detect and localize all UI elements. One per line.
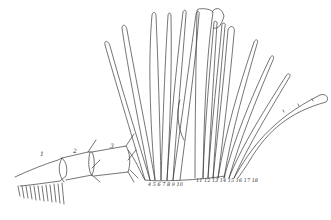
segment-1 [15, 158, 67, 204]
appendage-drawing [0, 0, 331, 220]
base-numbers-left: 4 5 6 7 8 9 10 [148, 182, 183, 187]
segment-label-2: 2 [73, 148, 77, 154]
segment-3 [92, 134, 138, 182]
base-numbers-right: 11 12 13 14 15 16 17 18 [196, 178, 258, 183]
segment-label-3: 3 [110, 143, 114, 149]
lamellae-right [178, 9, 328, 178]
segment-label-1: 1 [40, 151, 44, 157]
lamellae-left [105, 10, 199, 180]
